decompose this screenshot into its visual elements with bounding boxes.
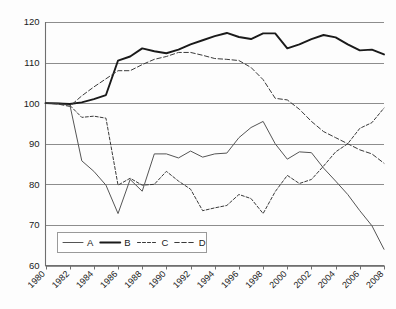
x-tick-label: 1992: [171, 269, 192, 290]
legend-label-b: B: [124, 237, 130, 248]
x-tick-label: 2000: [267, 269, 288, 290]
x-tick-label: 2004: [316, 269, 337, 290]
series-line-c: [46, 103, 385, 213]
y-tick-label: 60: [29, 260, 40, 271]
y-tick-label: 80: [29, 179, 40, 190]
legend-label-d: D: [199, 237, 206, 248]
series-line-b: [46, 33, 385, 104]
x-tick-label: 1982: [50, 269, 71, 290]
line-chart: 60708090100110120 1980198219841986198819…: [0, 0, 396, 309]
x-tick-label: 2002: [292, 269, 313, 290]
x-tick-label: 1980: [26, 269, 47, 290]
x-tick-label: 2008: [364, 269, 385, 290]
x-tick-label: 1996: [219, 269, 240, 290]
legend-label-c: C: [162, 237, 169, 248]
legend-label-a: A: [87, 237, 94, 248]
x-tick-label: 1998: [243, 269, 264, 290]
x-tick-label: 2006: [340, 269, 361, 290]
x-tick-label: 1994: [195, 269, 216, 290]
y-tick-label: 70: [29, 219, 40, 230]
y-tick-label: 100: [24, 98, 40, 109]
gridlines-group: [46, 23, 385, 267]
series-line-a: [46, 103, 385, 249]
x-tick-label: 1984: [74, 269, 95, 290]
legend: ABCD: [58, 233, 207, 253]
x-tick-label: 1986: [98, 269, 119, 290]
y-tick-label: 110: [24, 57, 39, 68]
y-axis-tick-labels: 60708090100110120: [24, 16, 40, 271]
x-tick-label: 1990: [147, 269, 168, 290]
chart-canvas: 60708090100110120 1980198219841986198819…: [0, 0, 396, 309]
y-tick-label: 90: [29, 138, 40, 149]
x-tick-label: 1988: [122, 269, 143, 290]
data-series-group: [46, 33, 385, 249]
y-tick-label: 120: [24, 16, 40, 27]
series-line-d: [46, 52, 385, 163]
x-axis-tick-labels: 1980198219841986198819901992199419961998…: [26, 269, 386, 290]
